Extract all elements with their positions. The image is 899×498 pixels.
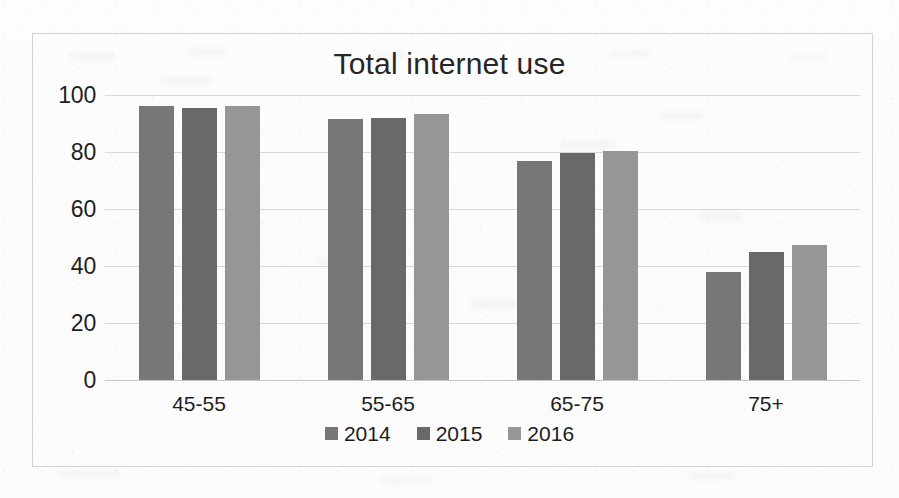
- y-tick-label: 60: [28, 196, 96, 223]
- x-tick-label-75-plus: 75+: [748, 392, 784, 416]
- legend-label: 2016: [527, 423, 574, 444]
- legend-item-2016[interactable]: 2016: [508, 423, 574, 444]
- bar-2016[interactable]: [603, 151, 638, 380]
- bar-2015[interactable]: [182, 108, 217, 380]
- bar-2014[interactable]: [328, 119, 363, 380]
- bar-2016[interactable]: [225, 106, 260, 380]
- y-tick-label: 100: [28, 82, 96, 109]
- bar-2015[interactable]: [749, 252, 784, 380]
- bar-2015[interactable]: [560, 153, 595, 380]
- bar-2016[interactable]: [792, 245, 827, 380]
- scan-smudge: [380, 476, 432, 484]
- legend-label: 2014: [344, 423, 391, 444]
- y-tick-label: 0: [28, 367, 96, 394]
- legend-swatch-icon: [325, 427, 338, 440]
- chart-title: Total internet use: [0, 47, 899, 81]
- gridline-0: [105, 380, 860, 381]
- x-tick-label-55-65: 55-65: [361, 392, 415, 416]
- bar-2016[interactable]: [414, 114, 449, 380]
- plot-area: [105, 95, 860, 380]
- bar-2015[interactable]: [371, 118, 406, 380]
- legend-item-2015[interactable]: 2015: [417, 423, 483, 444]
- bar-2014[interactable]: [517, 161, 552, 380]
- bar-group-75-plus: [672, 95, 861, 380]
- x-tick-label-45-55: 45-55: [172, 392, 226, 416]
- y-tick-label: 20: [28, 310, 96, 337]
- bar-group-65-75: [483, 95, 672, 380]
- bar-2014[interactable]: [139, 106, 174, 380]
- x-tick-label-65-75: 65-75: [550, 392, 604, 416]
- x-axis: 45-55 55-65 65-75 75+: [105, 392, 860, 424]
- legend: 2014 2015 2016: [0, 423, 899, 444]
- y-tick-label: 40: [28, 253, 96, 280]
- bar-group-55-65: [294, 95, 483, 380]
- legend-swatch-icon: [508, 427, 521, 440]
- y-tick-label: 80: [28, 139, 96, 166]
- legend-item-2014[interactable]: 2014: [325, 423, 391, 444]
- legend-label: 2015: [436, 423, 483, 444]
- legend-swatch-icon: [417, 427, 430, 440]
- bar-2014[interactable]: [706, 272, 741, 380]
- bar-group-45-55: [105, 95, 294, 380]
- scan-smudge: [690, 472, 734, 480]
